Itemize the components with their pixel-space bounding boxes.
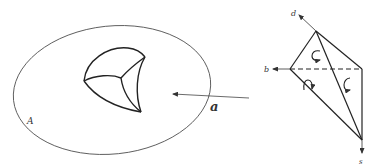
edge-left-bottom [290, 69, 362, 140]
axis-d: d [291, 9, 316, 31]
region-a-label: A [26, 116, 34, 126]
arrow-a-label: a [210, 99, 218, 114]
arrow-a-line [173, 94, 249, 98]
axis-b-label: b [264, 65, 269, 74]
cusp-outer-bottom [84, 81, 141, 112]
axis-s-label: s [359, 158, 363, 166]
cusp-outer-right [137, 57, 145, 112]
orientation-clockwise-icon [344, 78, 350, 90]
orientation-clockwise-icon [312, 51, 320, 61]
cusp-inner-edge-1 [84, 76, 121, 81]
edge-top-bottom [316, 31, 362, 140]
orientation-counterclockwise-icon [304, 80, 313, 90]
edge-top-right [316, 31, 362, 69]
axis-d-label: d [291, 9, 296, 18]
arrow-a: a [173, 94, 249, 114]
cusp-inner-edge-2 [121, 57, 145, 78]
region-a: A [7, 16, 217, 164]
edge-top-left [290, 31, 316, 69]
axis-b: b [264, 65, 290, 74]
axis-d-arrow [299, 15, 316, 31]
axis-s: s [359, 140, 363, 166]
tetrahedron [290, 31, 362, 140]
cusp-solid [84, 48, 145, 112]
diagram-canvas: A a d b s [0, 0, 374, 168]
region-a-boundary [7, 16, 217, 164]
